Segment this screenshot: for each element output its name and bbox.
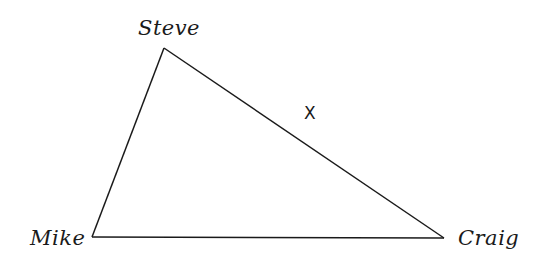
edge-mike-craig [92,237,444,238]
edge-steve-mike [92,48,164,237]
vertex-label-mike: Mike [30,226,85,250]
edge-steve-craig [164,48,444,238]
marker-x: X [304,103,316,123]
vertex-label-craig: Craig [458,226,519,250]
vertex-label-steve: Steve [138,16,200,40]
